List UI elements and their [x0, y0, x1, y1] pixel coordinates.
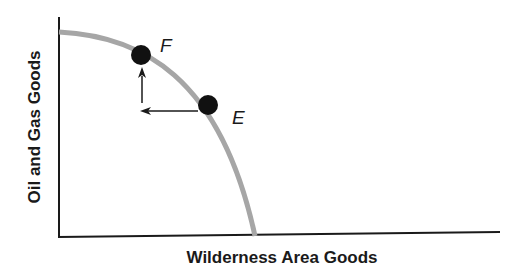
ppf-diagram: F E Wilderness Area Goods Oil and Gas Go…	[0, 0, 528, 272]
point-e	[198, 95, 218, 115]
point-f	[131, 45, 151, 65]
x-axis	[58, 232, 500, 237]
point-e-label: E	[232, 107, 245, 128]
y-axis-label: Oil and Gas Goods	[25, 50, 44, 203]
point-f-label: F	[160, 35, 173, 56]
x-axis-label: Wilderness Area Goods	[187, 248, 378, 267]
ppf-curve	[59, 32, 255, 236]
